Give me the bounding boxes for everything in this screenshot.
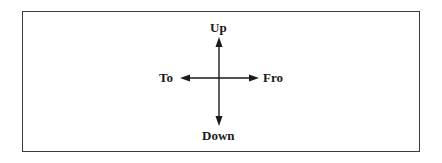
arrowhead-left-icon [180, 75, 190, 82]
label-to: To [159, 71, 173, 84]
label-fro: Fro [263, 71, 283, 84]
vertical-axis [216, 37, 223, 126]
label-down: Down [202, 129, 235, 142]
arrowhead-down-icon [216, 116, 223, 126]
arrowhead-up-icon [216, 37, 223, 47]
arrowhead-right-icon [249, 75, 259, 82]
label-up: Up [210, 21, 227, 34]
